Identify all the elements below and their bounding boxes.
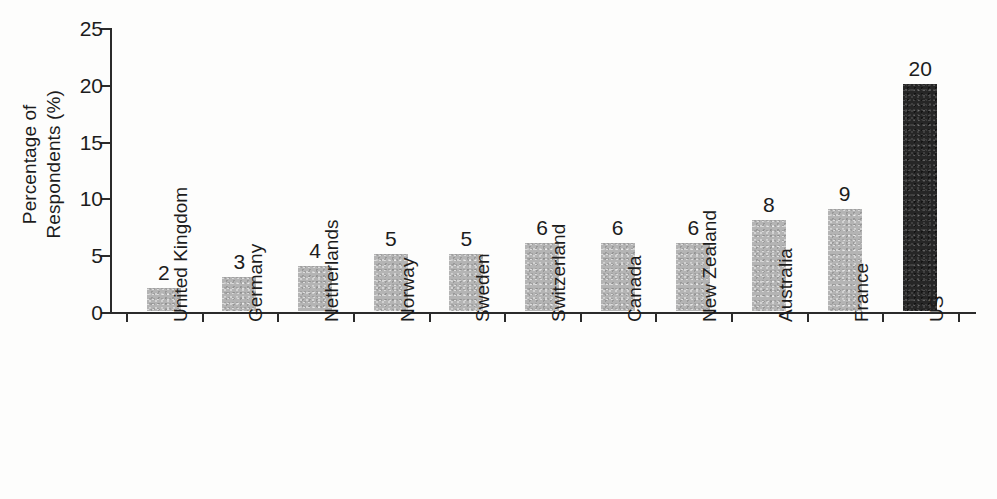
y-axis-title: Percentage of Respondents (%) bbox=[18, 34, 67, 294]
plot-area: 0510152025 234556668920 bbox=[110, 28, 976, 313]
x-axis-tick-mark bbox=[202, 314, 204, 322]
x-axis-category-text: Germany bbox=[246, 244, 265, 322]
x-axis-line bbox=[110, 312, 976, 314]
chart-figure: Percentage of Respondents (%) 0510152025… bbox=[0, 0, 997, 499]
bar-value-label: 9 bbox=[839, 182, 851, 206]
x-axis-tick-mark bbox=[580, 314, 582, 322]
bar: 20 bbox=[903, 84, 937, 311]
x-axis-category-text: US bbox=[927, 296, 946, 322]
x-axis-category-text: New Zealand bbox=[700, 210, 719, 322]
x-axis-tick-mark bbox=[277, 314, 279, 322]
bar-value-label: 5 bbox=[461, 227, 473, 251]
y-axis-line bbox=[110, 28, 112, 314]
x-axis-tick-mark bbox=[731, 314, 733, 322]
y-axis-tick-label: 20 bbox=[80, 74, 103, 98]
x-axis-tick-mark bbox=[126, 314, 128, 322]
x-axis-category-text: Netherlands bbox=[322, 220, 341, 322]
x-axis-category-text: Switzerland bbox=[549, 224, 568, 322]
bar-value-label: 8 bbox=[763, 193, 775, 217]
bar-value-label: 20 bbox=[908, 57, 931, 81]
x-axis-tick-mark bbox=[353, 314, 355, 322]
x-axis-category-text: France bbox=[852, 263, 871, 322]
bar-value-label: 6 bbox=[612, 216, 624, 240]
x-axis-tick-mark bbox=[504, 314, 506, 322]
x-axis-tick-mark bbox=[807, 314, 809, 322]
bar-value-label: 6 bbox=[536, 216, 548, 240]
x-axis-category-text: Canada bbox=[625, 255, 644, 322]
x-axis-tick-mark bbox=[958, 314, 960, 322]
bar-value-label: 5 bbox=[385, 227, 397, 251]
y-axis-title-line2: Respondents (%) bbox=[42, 34, 66, 294]
x-axis-tick-mark bbox=[882, 314, 884, 322]
bar-value-label: 2 bbox=[158, 261, 170, 285]
x-axis-category-text: Australia bbox=[776, 248, 795, 322]
x-axis-category-text: Sweden bbox=[473, 253, 492, 322]
y-axis-title-wrapper: Percentage of Respondents (%) bbox=[0, 0, 80, 320]
y-axis-tick-label: 0 bbox=[91, 301, 103, 325]
y-axis-tick-label: 5 bbox=[91, 244, 103, 268]
x-axis-category-text: United Kingdom bbox=[171, 187, 190, 322]
bar-value-label: 4 bbox=[309, 239, 321, 263]
x-axis-tick-mark bbox=[429, 314, 431, 322]
y-axis-tick-label: 25 bbox=[80, 17, 103, 41]
y-axis-tick-label: 15 bbox=[80, 131, 103, 155]
y-axis-title-line1: Percentage of bbox=[19, 105, 40, 225]
bar-value-label: 6 bbox=[687, 216, 699, 240]
x-axis-category-text: Norway bbox=[398, 258, 417, 322]
y-axis-tick-label: 10 bbox=[80, 187, 103, 211]
bar-value-label: 3 bbox=[234, 250, 246, 274]
x-axis-tick-mark bbox=[655, 314, 657, 322]
